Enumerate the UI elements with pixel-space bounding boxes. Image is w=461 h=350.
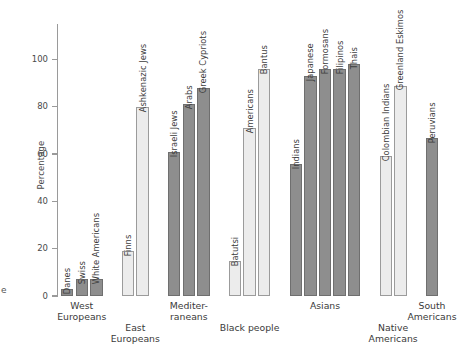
bar-label-batutsi: Batutsi — [231, 236, 239, 266]
bar-label-filipinos: Filipinos — [335, 40, 343, 74]
group-label-asians: Asians — [282, 300, 368, 311]
bar-label-greek-cypriots: Greek Cypriots — [199, 31, 207, 93]
bar-label-japanese: Japanese — [306, 43, 314, 81]
bar-label-arabs: Arabs — [185, 86, 193, 110]
bar-greenland-eskimos — [394, 86, 406, 297]
y-tick-label-0: 0 — [14, 291, 48, 301]
bar-label-bantus: Bantus — [260, 45, 268, 74]
bar-label-ashkenazic-jews: Ashkenazic Jews — [138, 44, 146, 112]
bar-arabs — [183, 104, 195, 296]
bar-greek-cypriots — [197, 88, 209, 296]
plot-area: DanesSwissWhite AmericansFinnsAshkenazic… — [58, 24, 402, 296]
bar-finns — [122, 251, 134, 296]
bar-ashkenazic-jews — [136, 107, 148, 296]
y-tick-label-80: 80 — [14, 101, 48, 111]
group-label-native-americans: Native Americans — [350, 322, 436, 344]
bar-filipinos — [333, 69, 345, 296]
group-label-black-people: Black people — [207, 322, 293, 333]
bar-label-greenland-eskimos: Greenland Eskimos — [396, 10, 404, 91]
bar-label-israeli-jews: Israeli Jews — [170, 110, 178, 157]
bar-label-white-americans: White Americans — [92, 213, 100, 284]
bar-label-formosans: Formosans — [321, 29, 329, 74]
y-tick-label-20: 20 — [14, 243, 48, 253]
group-label-west-europeans: West Europeans — [39, 300, 125, 322]
bar-peruvians — [426, 138, 438, 296]
y-tick-label-40: 40 — [14, 196, 48, 206]
bar-label-finns: Finns — [124, 235, 132, 257]
bar-label-swiss: Swiss — [78, 261, 86, 284]
bar-americans — [243, 128, 255, 296]
bar-formosans — [319, 69, 331, 296]
y-tick-label-60: 60 — [14, 149, 48, 159]
bar-bantus — [258, 69, 270, 296]
bar-israeli-jews — [168, 152, 180, 296]
group-label-east-europeans: East Europeans — [92, 322, 178, 344]
y-tick-label-100: 100 — [14, 54, 48, 64]
cropped-edge-glyph: e — [1, 286, 7, 295]
group-label-mediterraneans: Mediter- raneans — [146, 300, 232, 322]
bar-label-indians: Indians — [292, 139, 300, 169]
bar-thais — [348, 64, 360, 296]
bar-colombian-indians — [380, 156, 392, 296]
bar-indians — [290, 164, 302, 296]
bar-label-danes: Danes — [63, 268, 71, 294]
bar-label-thais: Thais — [350, 47, 358, 69]
bar-label-peruvians: Peruvians — [428, 102, 436, 143]
group-label-south-americans: South Americans — [389, 300, 461, 322]
bar-label-americans: Americans — [245, 89, 253, 133]
bar-label-colombian-indians: Colombian Indians — [382, 84, 390, 162]
bar-japanese — [304, 76, 316, 296]
